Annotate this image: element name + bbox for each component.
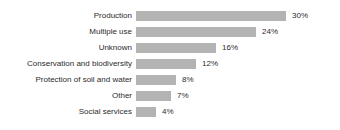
chart-row: Social services 4% [0, 104, 340, 120]
bar [136, 107, 156, 117]
bar-area: 24% [136, 24, 340, 40]
chart-row: Multiple use 24% [0, 24, 340, 40]
bar-chart: Production 30% Multiple use 24% Unknown … [0, 0, 340, 130]
value-label: 24% [256, 27, 278, 37]
value-label: 4% [156, 107, 174, 117]
chart-row: Protection of soil and water 8% [0, 72, 340, 88]
bar-area: 7% [136, 88, 340, 104]
category-label: Social services [0, 107, 136, 117]
chart-row: Conservation and biodiversity 12% [0, 56, 340, 72]
bar [136, 11, 286, 21]
bar-area: 4% [136, 104, 340, 120]
bar-area: 16% [136, 40, 340, 56]
category-label: Protection of soil and water [0, 75, 136, 85]
bar-area: 30% [136, 8, 340, 24]
value-label: 8% [176, 75, 194, 85]
category-label: Production [0, 11, 136, 21]
value-label: 30% [286, 11, 308, 21]
category-label: Multiple use [0, 27, 136, 37]
bar-area: 8% [136, 72, 340, 88]
value-label: 16% [216, 43, 238, 53]
bar [136, 27, 256, 37]
bar [136, 75, 176, 85]
bar [136, 91, 171, 101]
chart-rows: Production 30% Multiple use 24% Unknown … [0, 8, 340, 120]
category-label: Conservation and biodiversity [0, 59, 136, 69]
bar [136, 43, 216, 53]
chart-row: Other 7% [0, 88, 340, 104]
bar-area: 12% [136, 56, 340, 72]
chart-row: Production 30% [0, 8, 340, 24]
chart-row: Unknown 16% [0, 40, 340, 56]
value-label: 12% [196, 59, 218, 69]
category-label: Unknown [0, 43, 136, 53]
category-label: Other [0, 91, 136, 101]
value-label: 7% [171, 91, 189, 101]
bar [136, 59, 196, 69]
